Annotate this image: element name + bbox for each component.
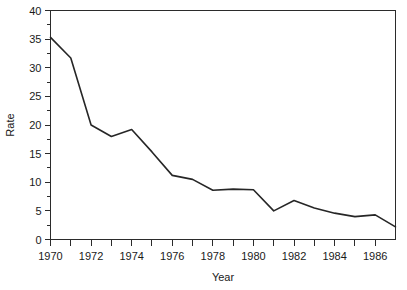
- y-axis-tick-label: 0: [35, 234, 41, 246]
- y-axis-tick-label: 40: [29, 5, 41, 17]
- x-axis-tick-label: 1970: [38, 250, 62, 262]
- y-axis-tick-label: 20: [29, 119, 41, 131]
- y-axis-title: Rate: [4, 113, 16, 136]
- y-axis-tick-label: 5: [35, 205, 41, 217]
- y-axis-tick-label: 15: [29, 148, 41, 160]
- y-axis-tick-label: 30: [29, 62, 41, 74]
- x-axis-tick-label: 1984: [322, 250, 346, 262]
- y-axis-tick-label: 25: [29, 90, 41, 102]
- y-axis-tick-label: 10: [29, 176, 41, 188]
- line-chart-figure: 0510152025303540 19701972197419761978198…: [0, 0, 407, 290]
- x-axis-tick-label: 1976: [160, 250, 184, 262]
- x-axis-tick-label: 1980: [241, 250, 265, 262]
- x-axis-title: Year: [212, 271, 235, 283]
- x-axis-tick-labels: 197019721974197619781980198219841986: [38, 250, 387, 262]
- x-axis-tick-label: 1974: [119, 250, 143, 262]
- chart-canvas: 0510152025303540 19701972197419761978198…: [0, 0, 407, 290]
- x-axis-tick-label: 1978: [201, 250, 225, 262]
- y-axis-tick-label: 35: [29, 33, 41, 45]
- x-axis-tick-label: 1986: [363, 250, 387, 262]
- x-axis-tick-label: 1972: [79, 250, 103, 262]
- chart-background: [0, 0, 407, 290]
- x-axis-tick-label: 1982: [282, 250, 306, 262]
